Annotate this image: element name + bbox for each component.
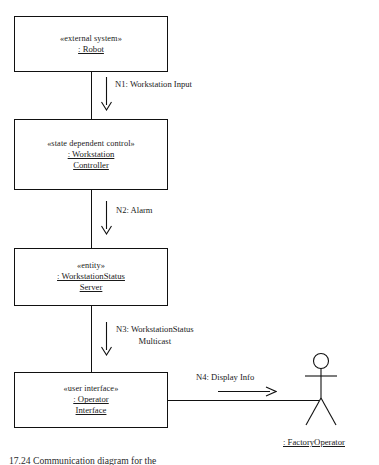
actor-factory-operator[interactable] — [300, 352, 342, 430]
message-label-n4: N4: Display Info — [196, 372, 254, 384]
arrow-down-n2 — [100, 201, 113, 235]
instance-name-operator-interface-line1: : Operator — [73, 394, 108, 405]
message-label-n1: N1: Workstation Input — [115, 79, 192, 91]
message-n3-line2: Multicast — [116, 336, 194, 348]
stereotype-label-workstation-controller: «state dependent control» — [47, 139, 135, 149]
object-box-operator-interface[interactable]: «user interface» : Operator Interface — [14, 372, 168, 428]
message-n1-line1: N1: Workstation Input — [115, 79, 192, 89]
uml-communication-diagram: «external system» : Robot N1: Workstatio… — [0, 0, 379, 465]
arrow-down-n3 — [100, 322, 113, 356]
arrow-down-n1 — [100, 77, 113, 111]
stereotype-label-workstation-status-server: «entity» — [77, 261, 105, 271]
object-box-workstation-status-server[interactable]: «entity» : WorkstationStatus Server — [14, 248, 168, 306]
actor-label-factory-operator: : FactoryOperator — [283, 437, 345, 447]
message-label-n3: N3: WorkstationStatus Multicast — [116, 324, 194, 347]
connector-line-n3 — [91, 306, 92, 372]
stereotype-label-robot: «external system» — [60, 34, 122, 44]
connector-line-n4 — [168, 400, 319, 401]
instance-name-workstation-controller-line1: : Workstation — [68, 149, 115, 160]
arrow-right-n4 — [218, 386, 277, 397]
message-n4-line1: N4: Display Info — [196, 372, 254, 382]
instance-name-workstation-status-server-line1: : WorkstationStatus — [57, 271, 125, 282]
instance-name-workstation-controller-line2: Controller — [73, 160, 109, 171]
message-n3-line1: N3: WorkstationStatus — [116, 324, 194, 334]
figure-caption: 17.24 Communication diagram for the — [9, 455, 156, 465]
object-box-workstation-controller[interactable]: «state dependent control» : Workstation … — [14, 119, 168, 190]
instance-name-workstation-status-server-line2: Server — [80, 282, 103, 293]
stereotype-label-operator-interface: «user interface» — [64, 384, 119, 394]
instance-name-robot: : Robot — [78, 44, 104, 55]
message-n2-line1: N2: Alarm — [116, 205, 153, 215]
instance-name-operator-interface-line2: Interface — [76, 405, 107, 416]
message-label-n2: N2: Alarm — [116, 205, 153, 217]
connector-line-n1 — [91, 72, 92, 119]
object-box-robot[interactable]: «external system» : Robot — [14, 16, 168, 72]
connector-line-n2 — [91, 190, 92, 248]
